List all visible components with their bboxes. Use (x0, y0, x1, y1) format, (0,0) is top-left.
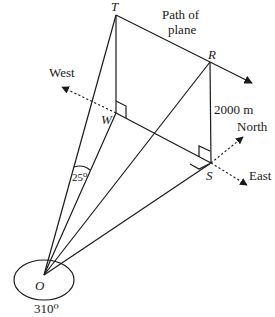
north-arrow (211, 137, 243, 163)
angle-arc-25 (74, 166, 90, 170)
direction-north: North (237, 119, 268, 134)
label-s: S (206, 168, 213, 183)
direction-east: East (249, 168, 272, 183)
west-arrow (62, 87, 116, 113)
right-angle-mark-s-vertical (199, 146, 210, 157)
line-ot (44, 15, 116, 275)
line-or (44, 62, 210, 275)
direction-west: West (49, 65, 75, 80)
ground-ws-line (116, 113, 211, 163)
label-t: T (111, 0, 119, 14)
bearing-diagram: T R W S O Path of plane 2000 m 25⁰ 310⁰ … (0, 0, 275, 317)
vertical-rs-line (210, 62, 211, 163)
path-label-line2: plane (168, 22, 196, 37)
label-o: O (35, 278, 45, 293)
angle-label: 25⁰ (72, 171, 88, 183)
path-label-line1: Path of (162, 7, 200, 22)
bearing-label: 310⁰ (34, 301, 59, 316)
label-w: W (101, 112, 113, 127)
east-arrow (211, 163, 247, 185)
label-r: R (207, 47, 216, 62)
height-label: 2000 m (214, 102, 253, 117)
